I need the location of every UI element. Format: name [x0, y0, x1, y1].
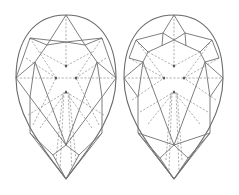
- pavilion-facet-line: [169, 92, 172, 170]
- crown-facet-line: [97, 62, 102, 97]
- crown-facet-line: [129, 40, 136, 58]
- crown-facet-line: [174, 40, 200, 52]
- crown-facet-line: [200, 52, 205, 62]
- crown-facet-line: [143, 52, 148, 62]
- crown-facet-line: [163, 33, 174, 40]
- pavilion-facet-line: [184, 78, 216, 100]
- crown-facet-line: [35, 62, 66, 145]
- crown-facet-line: [163, 15, 174, 33]
- pavilion-facet-line: [76, 58, 106, 78]
- culet-point-marker: [173, 64, 175, 67]
- culet-point-marker: [163, 76, 165, 79]
- pavilion-facet-line: [129, 58, 164, 78]
- diagram-figure: [0, 0, 239, 195]
- pavilion-facet-line: [174, 52, 200, 66]
- crown-facet-line: [205, 62, 223, 78]
- culet-point-marker: [55, 76, 57, 79]
- pavilion-facet-line: [26, 58, 56, 78]
- crown-facet-line: [200, 40, 212, 52]
- crown-facet-line: [30, 133, 53, 155]
- crown-facet-line: [205, 58, 219, 62]
- crown-facet-line: [162, 33, 163, 46]
- pavilion-facet-line: [174, 92, 208, 112]
- pavilion-facet-line: [66, 92, 104, 115]
- culet-point-marker: [173, 90, 175, 93]
- crown-facet-line: [66, 133, 102, 179]
- crown-facet-line: [30, 133, 66, 179]
- crown-facet-line: [212, 40, 219, 58]
- pavilion-facet-line: [76, 78, 99, 125]
- pear-diamond-facet-diagrams: [0, 0, 239, 195]
- pavilion-facet-line: [33, 78, 56, 125]
- crown-facet-line: [66, 155, 79, 179]
- crown-facet-line: [138, 62, 143, 97]
- crown-facet-line: [143, 62, 174, 145]
- crown-facet-line: [185, 33, 186, 46]
- crown-facet-line: [174, 15, 185, 33]
- crown-facet-line: [174, 62, 205, 145]
- crown-facet-line: [53, 145, 66, 155]
- crown-facet-line: [47, 42, 66, 45]
- pear-diagram-left: [16, 15, 116, 179]
- crown-facet-line: [30, 62, 35, 97]
- culet-point-marker: [183, 76, 185, 79]
- crown-facet-line: [124, 62, 143, 78]
- pavilion-facet-line: [184, 40, 212, 78]
- crown-facet-line: [148, 40, 174, 52]
- culet-point-marker: [65, 90, 67, 93]
- crown-facet-line: [174, 33, 185, 40]
- culet-point-marker: [65, 64, 67, 67]
- pavilion-facet-line: [174, 92, 200, 124]
- crown-facet-line: [136, 40, 148, 52]
- crown-facet-line: [66, 62, 97, 145]
- pavilion-facet-line: [140, 92, 174, 112]
- pavilion-facet-line: [40, 52, 66, 66]
- crown-facet-line: [85, 45, 97, 62]
- pear-diagram-right: [124, 15, 223, 179]
- pavilion-facet-line: [136, 40, 164, 78]
- crown-facet-line: [35, 45, 47, 62]
- pavilion-facet-line: [148, 92, 174, 124]
- crown-facet-line: [205, 62, 210, 97]
- pavilion-facet-line: [184, 58, 219, 78]
- crown-facet-line: [66, 145, 79, 155]
- crown-facet-line: [136, 33, 163, 40]
- pavilion-facet-line: [132, 78, 164, 100]
- crown-facet-line: [129, 58, 143, 62]
- crown-facet-line: [185, 33, 212, 40]
- crown-facet-line: [79, 133, 102, 155]
- crown-facet-line: [138, 133, 174, 179]
- pavilion-facet-line: [28, 92, 66, 115]
- crown-facet-line: [66, 42, 85, 45]
- culet-point-marker: [75, 76, 77, 79]
- crown-facet-line: [174, 133, 210, 179]
- pavilion-facet-line: [176, 92, 179, 170]
- pavilion-facet-line: [148, 52, 174, 66]
- crown-facet-line: [53, 155, 66, 179]
- pavilion-facet-line: [66, 52, 92, 66]
